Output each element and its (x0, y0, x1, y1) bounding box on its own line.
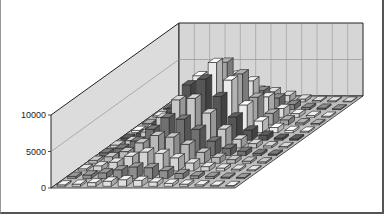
bar3d-chart: 0500010000 (0, 0, 385, 216)
y-tick-label: 5000 (26, 147, 46, 157)
y-axis: 0500010000 (21, 110, 51, 193)
y-tick-label: 10000 (21, 110, 46, 120)
y-tick-label: 0 (41, 183, 46, 193)
